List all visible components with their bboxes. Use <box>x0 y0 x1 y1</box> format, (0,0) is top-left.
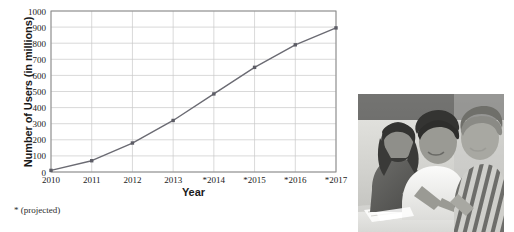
photo-illustration <box>358 94 504 232</box>
y-tick-label: 300 <box>33 119 47 129</box>
x-tick-label: 2010 <box>42 175 61 185</box>
data-point-marker[interactable] <box>90 159 93 162</box>
data-point-marker[interactable] <box>131 141 134 144</box>
x-tick-label: *2016 <box>284 175 307 185</box>
x-axis-title: Year <box>51 186 336 198</box>
data-point-marker[interactable] <box>171 119 174 122</box>
y-axis-title: Number of Users (in millions) <box>22 12 34 172</box>
students-studying-photo <box>358 94 504 232</box>
x-tick-label: 2011 <box>83 175 101 185</box>
x-tick-label: 2013 <box>164 175 183 185</box>
figure-with-chart-and-photo: 0100200300400500600700800900100020102011… <box>0 0 514 232</box>
y-tick-label: 800 <box>33 39 47 49</box>
y-tick-label: 700 <box>33 55 47 65</box>
x-tick-label: *2017 <box>325 175 348 185</box>
x-tick-label: 2012 <box>123 175 141 185</box>
x-tick-label: *2014 <box>203 175 226 185</box>
data-point-marker[interactable] <box>253 66 256 69</box>
y-tick-label: 600 <box>33 71 47 81</box>
x-tick-label: *2015 <box>243 175 266 185</box>
data-point-marker[interactable] <box>212 92 215 95</box>
y-tick-label: 200 <box>33 135 47 145</box>
y-tick-label: 500 <box>33 87 47 97</box>
data-point-marker[interactable] <box>334 26 337 29</box>
projected-footnote: * (projected) <box>14 205 60 215</box>
y-tick-label: 900 <box>33 23 47 33</box>
y-tick-label: 100 <box>33 151 47 161</box>
data-point-marker[interactable] <box>49 169 52 172</box>
y-tick-label: 400 <box>33 103 47 113</box>
data-point-marker[interactable] <box>294 43 297 46</box>
line-chart: 0100200300400500600700800900100020102011… <box>0 0 350 232</box>
